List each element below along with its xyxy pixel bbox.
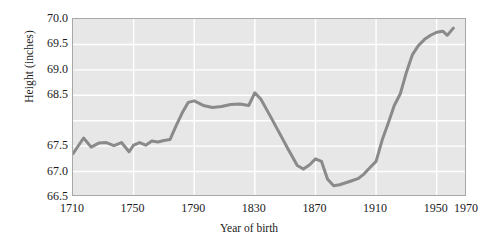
x-tick-label: 1750 <box>103 202 163 214</box>
chart-figure: Height (inches) 66.567.067.568.569.069.5… <box>0 0 498 247</box>
x-tick-label: 1790 <box>163 202 223 214</box>
x-tick-label: 1870 <box>284 202 344 214</box>
x-tick-label: 1970 <box>436 202 496 214</box>
x-tick-label: 1830 <box>224 202 284 214</box>
x-tick-label: 1710 <box>42 202 102 214</box>
x-tick-label: 1910 <box>345 202 405 214</box>
x-axis-title: Year of birth <box>0 222 498 234</box>
x-axis-tick-labels: 17101750179018301870191019501970 <box>0 0 498 247</box>
